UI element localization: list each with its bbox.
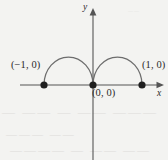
y-axis-label: y xyxy=(83,3,87,13)
x-axis-label: x xyxy=(157,89,161,99)
left-semicircle-arc xyxy=(44,57,93,85)
graph-figure: — —— — —— ——— ——— —— ———— — —— —— —— (−1… xyxy=(0,0,168,160)
point-label-origin: (0, 0) xyxy=(92,88,115,99)
data-point-right xyxy=(138,81,145,88)
y-axis-arrowhead-icon xyxy=(90,8,97,16)
data-point-left xyxy=(40,81,47,88)
point-label-right: (1, 0) xyxy=(142,60,165,71)
right-semicircle-arc xyxy=(93,57,142,85)
coordinate-plane xyxy=(0,0,168,160)
point-label-left: (−1, 0) xyxy=(11,60,40,71)
